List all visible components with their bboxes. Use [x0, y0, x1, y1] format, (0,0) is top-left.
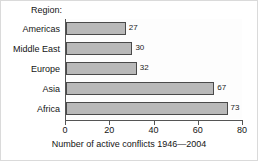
bar-value-americas: 27	[129, 21, 138, 34]
x-tick-label-80: 80	[237, 125, 247, 135]
category-label-asia: Asia	[0, 79, 60, 99]
bar-europe	[66, 62, 137, 75]
bar-chart-figure: Region: Americas Middle East Europe Asia…	[0, 0, 258, 161]
bar-americas	[66, 22, 126, 35]
x-tick-label-0: 0	[62, 125, 67, 135]
bar-value-asia: 67	[217, 81, 226, 94]
y-axis-group-title: Region:	[1, 5, 62, 15]
x-tick-label-60: 60	[193, 125, 203, 135]
category-label-middle-east: Middle East	[0, 39, 60, 59]
plot-area: 27 30 32 67 73 020406080	[65, 19, 242, 119]
bar-value-africa: 73	[231, 101, 240, 114]
bar-asia	[66, 82, 214, 95]
bar-value-middle-east: 30	[135, 41, 144, 54]
bar-value-europe: 32	[140, 61, 149, 74]
category-label-americas: Americas	[0, 19, 60, 39]
bar-middle-east	[66, 42, 132, 55]
category-label-europe: Europe	[0, 59, 60, 79]
x-tick-label-40: 40	[148, 125, 158, 135]
bar-africa	[66, 102, 228, 115]
x-axis-title: Number of active conflicts 1946—2004	[1, 139, 257, 149]
category-label-africa: Africa	[0, 99, 60, 119]
x-tick-label-20: 20	[104, 125, 114, 135]
